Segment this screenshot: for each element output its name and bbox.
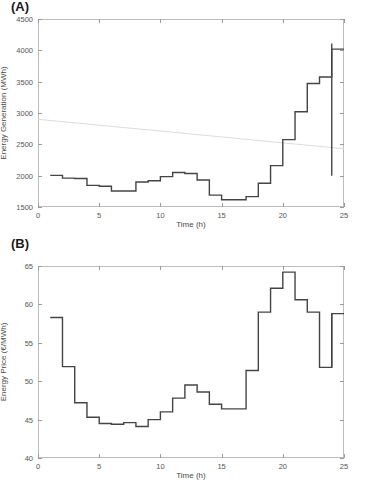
x-tick-mark (222, 266, 223, 270)
x-tick-mark (283, 19, 284, 23)
y-tick-mark (340, 176, 344, 177)
y-tick-label: 2000 (16, 171, 33, 180)
trend-line (38, 119, 344, 148)
y-tick-label: 3500 (16, 77, 33, 86)
y-tick-mark (340, 144, 344, 145)
x-axis-label-b: Time (h) (38, 471, 344, 480)
y-tick-mark (38, 113, 42, 114)
x-tick-label: 10 (156, 462, 164, 471)
y-tick-label: 55 (25, 338, 33, 347)
x-tick-mark (160, 203, 161, 207)
y-tick-label: 50 (25, 377, 33, 386)
x-tick-mark (344, 454, 345, 458)
x-tick-mark (38, 454, 39, 458)
x-axis-label-a: Time (h) (38, 220, 344, 229)
y-tick-mark (38, 381, 42, 382)
x-tick-label: 5 (97, 211, 101, 220)
x-tick-mark (99, 266, 100, 270)
x-tick-mark (99, 454, 100, 458)
plot-area-a: Energy Generation (MWh) Time (h) 1500200… (38, 19, 344, 207)
x-tick-label: 15 (217, 462, 225, 471)
x-tick-mark (222, 19, 223, 23)
data-series-line (50, 272, 344, 426)
x-tick-mark (222, 203, 223, 207)
y-tick-mark (38, 50, 42, 51)
plot-area-b: Energy Price (€/MWh) Time (h) 4045505560… (38, 266, 344, 458)
x-tick-mark (283, 203, 284, 207)
y-tick-label: 2500 (16, 140, 33, 149)
y-tick-mark (38, 144, 42, 145)
y-tick-label: 4000 (16, 46, 33, 55)
x-tick-label: 25 (340, 462, 348, 471)
y-tick-label: 1500 (16, 203, 33, 212)
x-tick-mark (344, 203, 345, 207)
y-tick-label: 3000 (16, 109, 33, 118)
x-tick-mark (160, 266, 161, 270)
x-tick-mark (99, 203, 100, 207)
y-tick-mark (340, 113, 344, 114)
y-tick-mark (38, 82, 42, 83)
y-tick-label: 60 (25, 300, 33, 309)
x-tick-label: 25 (340, 211, 348, 220)
y-tick-mark (340, 82, 344, 83)
x-tick-mark (38, 19, 39, 23)
panel-b-label: (B) (11, 236, 29, 251)
x-tick-label: 5 (97, 462, 101, 471)
x-tick-mark (344, 266, 345, 270)
y-tick-label: 40 (25, 454, 33, 463)
x-tick-mark (160, 454, 161, 458)
y-tick-mark (38, 420, 42, 421)
y-tick-mark (340, 304, 344, 305)
x-tick-label: 20 (279, 462, 287, 471)
y-axis-label-a: Energy Generation (MWh) (8, 20, 17, 113)
y-tick-label: 65 (25, 262, 33, 271)
x-tick-label: 0 (36, 211, 40, 220)
x-tick-mark (38, 203, 39, 207)
x-tick-mark (99, 19, 100, 23)
x-tick-mark (160, 19, 161, 23)
y-tick-mark (340, 207, 344, 208)
x-tick-label: 15 (217, 211, 225, 220)
y-tick-mark (38, 343, 42, 344)
panel-a: (A) Energy Generation (MWh) Time (h) 150… (0, 0, 382, 252)
y-tick-mark (340, 381, 344, 382)
y-tick-mark (340, 343, 344, 344)
y-tick-mark (38, 176, 42, 177)
x-tick-mark (283, 454, 284, 458)
y-axis-label-b: Energy Price (€/MWh) (8, 283, 17, 362)
x-tick-mark (222, 454, 223, 458)
x-tick-label: 0 (36, 462, 40, 471)
panel-b: (B) Energy Price (€/MWh) Time (h) 404550… (0, 236, 382, 504)
y-tick-mark (340, 458, 344, 459)
y-tick-mark (340, 50, 344, 51)
x-tick-label: 10 (156, 211, 164, 220)
x-tick-mark (344, 19, 345, 23)
y-tick-label: 45 (25, 415, 33, 424)
panel-a-label: (A) (11, 0, 29, 14)
x-tick-mark (283, 266, 284, 270)
y-tick-mark (38, 458, 42, 459)
x-tick-label: 20 (279, 211, 287, 220)
y-tick-label: 4500 (16, 15, 33, 24)
x-tick-mark (38, 266, 39, 270)
series-canvas-a (38, 19, 344, 207)
y-tick-mark (38, 207, 42, 208)
y-tick-mark (38, 304, 42, 305)
y-tick-mark (340, 420, 344, 421)
series-canvas-b (38, 266, 344, 458)
